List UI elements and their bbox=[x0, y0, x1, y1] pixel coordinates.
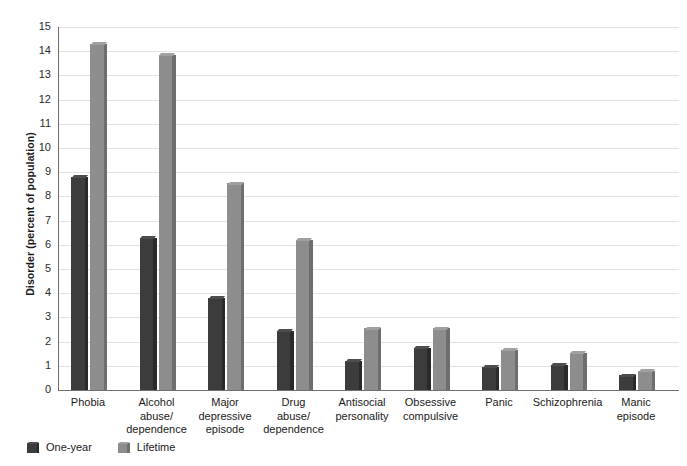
y-tick-label: 13 bbox=[25, 69, 51, 80]
legend-swatch-lifetime bbox=[118, 442, 130, 453]
bar-group bbox=[140, 27, 176, 390]
bar-one-year bbox=[619, 375, 636, 390]
bar-lifetime bbox=[227, 183, 244, 390]
y-tick-label: 8 bbox=[25, 190, 51, 201]
bar-lifetime bbox=[570, 353, 587, 391]
y-tick-label: 11 bbox=[25, 118, 51, 129]
bar-lifetime bbox=[638, 371, 655, 390]
bar-one-year bbox=[414, 348, 431, 390]
bar-lifetime bbox=[159, 55, 176, 390]
bar-lifetime bbox=[364, 328, 381, 390]
bar-one-year bbox=[71, 177, 88, 390]
legend-label-lifetime: Lifetime bbox=[137, 441, 176, 453]
y-tick-label: 12 bbox=[25, 94, 51, 105]
bar-lifetime bbox=[433, 328, 450, 390]
y-tick-label: 14 bbox=[25, 45, 51, 56]
plot-area bbox=[58, 27, 679, 391]
bar-lifetime bbox=[90, 44, 107, 390]
y-tick-label: 7 bbox=[25, 215, 51, 226]
bar-one-year bbox=[551, 365, 568, 390]
y-tick-label: 0 bbox=[25, 384, 51, 395]
bar-group bbox=[551, 27, 587, 390]
y-tick-label: 5 bbox=[25, 263, 51, 274]
bar-group bbox=[277, 27, 313, 390]
bar-group bbox=[208, 27, 244, 390]
y-tick-label: 4 bbox=[25, 287, 51, 298]
bar-group bbox=[482, 27, 518, 390]
bar-group bbox=[619, 27, 655, 390]
legend-swatch-one-year bbox=[27, 442, 39, 453]
y-tick-label: 2 bbox=[25, 336, 51, 347]
bar-one-year bbox=[277, 331, 294, 390]
legend-label-one-year: One-year bbox=[46, 441, 92, 453]
bar-chart: Disorder (percent of population) One-yea… bbox=[0, 0, 687, 466]
bar-one-year bbox=[140, 238, 157, 390]
y-tick-label: 10 bbox=[25, 142, 51, 153]
y-tick-label: 3 bbox=[25, 311, 51, 322]
cropped-header-sliver bbox=[40, 0, 640, 5]
bar-group bbox=[71, 27, 107, 390]
bar-one-year bbox=[208, 298, 225, 390]
bar-lifetime bbox=[296, 240, 313, 390]
chart-legend: One-year Lifetime bbox=[27, 441, 175, 453]
legend-item-lifetime: Lifetime bbox=[118, 441, 176, 453]
legend-item-one-year: One-year bbox=[27, 441, 92, 453]
y-tick-label: 1 bbox=[25, 360, 51, 371]
y-tick-label: 15 bbox=[25, 21, 51, 32]
bar-one-year bbox=[482, 367, 499, 390]
y-tick-label: 6 bbox=[25, 239, 51, 250]
x-category-label: Manic episode bbox=[591, 396, 681, 423]
bar-lifetime bbox=[501, 350, 518, 390]
bar-group bbox=[414, 27, 450, 390]
y-tick-label: 9 bbox=[25, 166, 51, 177]
bar-group bbox=[345, 27, 381, 390]
bar-one-year bbox=[345, 361, 362, 390]
